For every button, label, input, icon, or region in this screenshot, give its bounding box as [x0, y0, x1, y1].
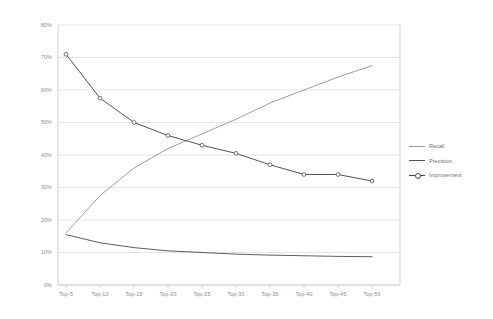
y-tick-label: 70% [22, 54, 52, 60]
legend-label-recall: Recall [429, 143, 445, 149]
legend-item-recall[interactable]: Recall [409, 142, 462, 150]
y-tick-label: 20% [22, 217, 52, 223]
legend-swatch-recall [409, 142, 425, 150]
legend-swatch-precision [409, 157, 425, 165]
legend-label-precision: Precision [429, 158, 452, 164]
chart-legend: Recall Precision Improvement [409, 142, 462, 179]
series-layer [64, 52, 374, 256]
y-tick-label: 40% [22, 152, 52, 158]
y-tick-label: 0% [22, 282, 52, 288]
x-tick-label: Top-50 [352, 291, 392, 297]
legend-item-precision[interactable]: Precision [409, 157, 462, 165]
y-tick-label: 60% [22, 87, 52, 93]
gridlines [58, 25, 400, 285]
y-tick-label: 30% [22, 184, 52, 190]
legend-label-improvement: Improvement [429, 172, 462, 178]
y-tick-label: 80% [22, 22, 52, 28]
y-tick-label: 10% [22, 249, 52, 255]
legend-swatch-improvement [409, 171, 425, 179]
chart-container: 0%10%20%30%40%50%60%70%80% Top-5Top-10To… [0, 0, 493, 319]
y-tick-label: 50% [22, 119, 52, 125]
circle-marker-icon [415, 173, 421, 179]
x-tick-marks [66, 285, 372, 289]
legend-item-improvement[interactable]: Improvement [409, 171, 462, 179]
